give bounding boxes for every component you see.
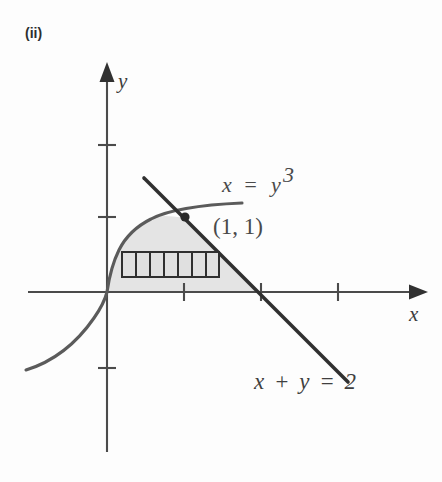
riemann-rect bbox=[178, 252, 192, 277]
riemann-rect bbox=[136, 252, 150, 277]
riemann-rect bbox=[150, 252, 164, 277]
riemann-rect bbox=[122, 252, 136, 277]
figure-plot: y x x = y 3 (1, 1) x + y = 2 bbox=[0, 0, 442, 482]
y-axis-label: y bbox=[116, 69, 128, 93]
intersection-point-label: (1, 1) bbox=[213, 214, 263, 239]
riemann-rect bbox=[206, 252, 219, 277]
riemann-rect bbox=[164, 252, 178, 277]
curve-equation-label: x = y 3 bbox=[221, 162, 294, 197]
curve-equation-lhs: x bbox=[221, 172, 232, 197]
line-equation-label: x + y = 2 bbox=[253, 369, 358, 394]
riemann-rect bbox=[192, 252, 206, 277]
curve-equation-base: y bbox=[269, 172, 281, 197]
x-axis-label: x bbox=[408, 302, 419, 326]
figure-container: (ii) bbox=[0, 0, 442, 482]
riemann-rectangles bbox=[122, 252, 219, 277]
y-axis bbox=[100, 62, 115, 452]
curve-equation-exponent: 3 bbox=[282, 162, 294, 187]
intersection-point-marker bbox=[180, 212, 189, 221]
curve-equation-equals: = bbox=[243, 172, 258, 197]
